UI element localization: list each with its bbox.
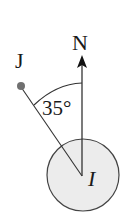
circle-around-I — [47, 139, 119, 211]
bearing-diagram: J N I 35° — [0, 0, 127, 221]
label-J: J — [15, 48, 24, 73]
angle-label: 35° — [42, 96, 71, 120]
label-N: N — [72, 30, 88, 55]
point-J-dot — [17, 82, 25, 90]
